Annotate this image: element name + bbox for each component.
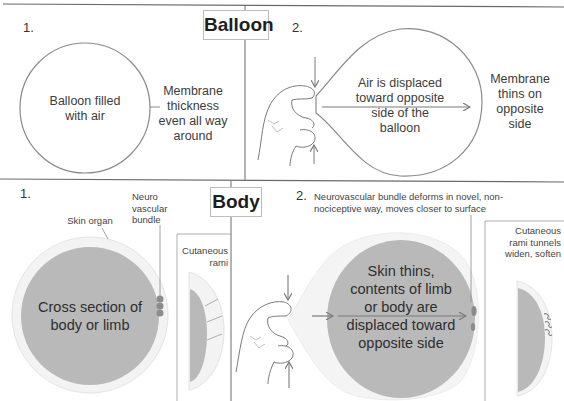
neurovascular-bundle-dots [157,296,164,317]
body-panel2-number: 2. [296,188,307,203]
balloon-panel2-number: 2. [292,20,303,35]
skin-organ-label: Skin organ [60,215,120,227]
cutaneous-rami-tunnels-label: Cutaneous rami tunnels widen, soften [486,225,561,260]
cutaneous-rami-label: Cutaneous rami [177,245,228,268]
body-panel1-inside-label: Cross section of body or limb [25,298,155,334]
body-panel2-inside-label: Skin thins, contents of limb or body are… [336,262,466,352]
hand-pinch-icon [258,57,315,166]
balloon-panel2-inside-label: Air is displaced toward opposite side of… [345,76,455,136]
body-panel2-caption: Neurovascular bundle deforms in novel, n… [314,191,554,214]
balloon-section-title: Balloon [203,10,269,40]
balloon-panel1-inside-label: Balloon filled with air [40,94,130,124]
balloon-panel1-number: 1. [23,20,34,35]
body-section-title: Body [210,187,262,217]
balloon-panel2-membrane-label: Membrane thins on opposite side [483,72,557,132]
balloon-body-diagram: Balloon Body 1. Balloon filled with air … [0,0,564,401]
hand-pinch-icon [236,275,293,388]
neurovascular-bundle-label: Neuro vascular bundle [132,191,182,226]
body-panel1-number: 1. [20,186,31,201]
balloon-panel1-membrane-label: Membrane thickness even all way around [153,84,233,144]
